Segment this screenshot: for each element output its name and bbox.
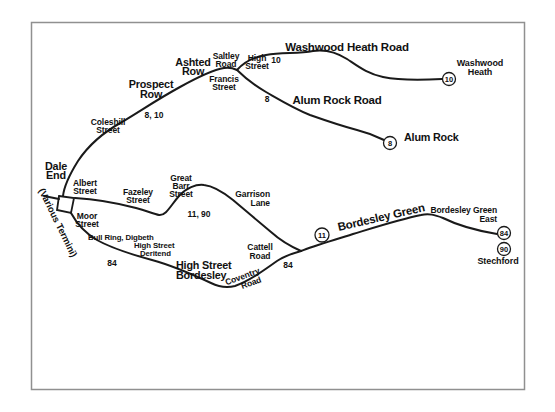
terminus-number-90: 90 — [500, 245, 508, 254]
route-circle-number-11: 11 — [318, 231, 326, 240]
label-cattell-road-2: Road — [250, 251, 271, 261]
route-number-coventry: 84 — [283, 260, 293, 270]
label-dale-end-2: End — [46, 169, 66, 181]
terminus-badge-10: 10 — [443, 73, 456, 86]
label-washwood-heath-road: Washwood Heath Road — [285, 41, 409, 53]
terminus-badge-90: 90 — [498, 243, 511, 256]
terminus-number-10: 10 — [445, 75, 453, 84]
label-alum-rock-road: Alum Rock Road — [292, 94, 381, 106]
route-number-alum-branch: 8 — [265, 94, 270, 104]
terminus-badge-8: 8 — [384, 137, 397, 150]
route-number-fazeley: 11, 90 — [187, 209, 210, 219]
label-washwood-heath-2: Heath — [468, 67, 493, 77]
label-high-street-deritend-2: Deritend — [140, 249, 171, 258]
route-badge-11: 11 — [315, 228, 329, 242]
route-bordesley-green-line — [301, 214, 497, 251]
route-map: Washwood Heath Road Alum Rock Road Borde… — [0, 0, 555, 412]
route-number-coleshill: 8, 10 — [145, 110, 164, 120]
route-number-digbeth: 84 — [107, 258, 117, 268]
label-alum-rock: Alum Rock — [404, 131, 460, 143]
label-high-street-bordesley-2: Bordesley — [176, 269, 227, 281]
label-moor-street-2: Street — [75, 219, 99, 229]
label-fazeley-street-2: Street — [126, 195, 150, 205]
label-great-barr-street-3: Street — [169, 189, 193, 199]
label-ashted-row-2: Row — [182, 65, 205, 77]
terminus-badge-84: 84 — [498, 227, 511, 240]
label-albert-street-2: Street — [73, 186, 97, 196]
label-coleshill-street-2: Street — [96, 125, 120, 135]
label-bordesley-green-east-2: East — [479, 214, 497, 224]
route-number-washwood-branch: 10 — [271, 55, 281, 65]
label-francis-street-2: Street — [212, 82, 236, 92]
terminus-number-84: 84 — [500, 229, 509, 238]
terminus-number-8: 8 — [388, 139, 392, 148]
label-prospect-row-2: Row — [140, 88, 163, 100]
label-garrison-lane-2: Lane — [251, 198, 271, 208]
label-saltley-road-2: Road — [216, 59, 237, 69]
label-high-street-2: Street — [245, 61, 269, 71]
route-map-canvas: Washwood Heath Road Alum Rock Road Borde… — [0, 0, 555, 412]
label-stechford: Stechford — [477, 256, 518, 266]
